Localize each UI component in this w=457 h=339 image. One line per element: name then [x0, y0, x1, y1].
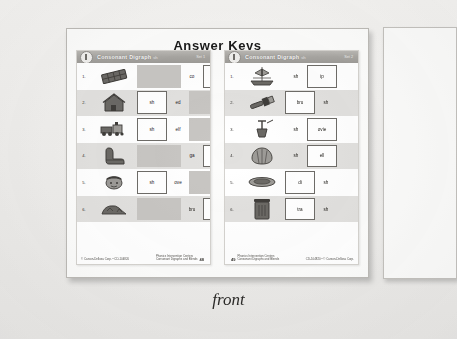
trash-pile-icon — [91, 196, 137, 223]
answer-cell-blank[interactable] — [189, 171, 211, 194]
answer-cell[interactable]: sh — [203, 145, 211, 168]
worksheet-right-title: Consonant Digraph — [245, 54, 299, 60]
answer-cell-blank[interactable] — [137, 145, 181, 168]
answer-cell[interactable]: ga — [181, 145, 203, 168]
worksheet-right-set-label: Set 2 — [344, 55, 353, 59]
answer-cell[interactable]: sh — [285, 145, 307, 168]
worksheet-right-footer: 49 Phonics Intervention Centers Consonan… — [225, 250, 358, 264]
answer-cell[interactable]: ove — [167, 171, 189, 194]
answer-cell[interactable]: ell — [307, 145, 337, 168]
worksheet-right-subtitle: sh — [301, 55, 305, 60]
page-number: 49 — [229, 257, 237, 262]
worksheet-left-footer: © Carson-Dellosa Corp. • CD-104820 Phoni… — [77, 250, 210, 264]
shovel-icon — [239, 116, 285, 143]
row-number: 1. — [225, 74, 239, 79]
answer-cell[interactable]: ovie — [307, 118, 337, 141]
answer-cell[interactable]: co — [181, 65, 203, 88]
answer-cell[interactable]: ed — [167, 91, 189, 114]
ship-icon — [239, 63, 285, 90]
answer-cell[interactable]: sh — [315, 171, 337, 194]
table-row[interactable]: 4. gash — [77, 143, 210, 170]
dish-icon — [239, 169, 285, 196]
figure-caption: front — [0, 290, 457, 310]
row-number: 6. — [225, 207, 239, 212]
worksheet-right-rows: 1. ship2. brush3. shovie4. shell5. dish6… — [225, 63, 358, 250]
number-badge-icon — [228, 51, 241, 64]
table-row[interactable]: 5. dish — [225, 169, 358, 196]
worksheet-left-rows: 1. cosh2. shed3. shelf4. gash5. shove6. — [77, 63, 210, 250]
table-row[interactable]: 1. cosh — [77, 63, 210, 90]
train-icon — [91, 116, 137, 143]
answer-cell-blank[interactable] — [189, 118, 211, 141]
table-row[interactable]: 6. brush — [77, 196, 210, 223]
copyright-text: © Carson-Dellosa Corp. • CD-104820 — [81, 258, 129, 262]
brush-icon — [239, 90, 285, 117]
adjacent-card-partial — [383, 27, 457, 279]
answer-cell[interactable]: elf — [167, 118, 189, 141]
answer-key-card: Answer Keys Consonant Digraph sh Set 1 1… — [66, 28, 369, 278]
answer-cells: ship — [285, 63, 358, 90]
answer-cells: shed — [137, 90, 211, 117]
worksheet-left-subtitle: sh — [153, 55, 157, 60]
row-number: 2. — [225, 100, 239, 105]
answer-cell-blank[interactable] — [137, 65, 181, 88]
row-number: 5. — [77, 180, 91, 185]
table-row[interactable]: 3. shelf — [77, 116, 210, 143]
answer-cell[interactable]: bru — [285, 91, 315, 114]
answer-cells: shell — [285, 143, 358, 170]
worksheet-left[interactable]: Consonant Digraph sh Set 1 1. cosh2. she… — [76, 50, 211, 265]
copyright-text: CD-104820 • © Carson-Dellosa Corp. — [306, 258, 354, 262]
answer-cell[interactable]: ip — [307, 65, 337, 88]
answer-cell[interactable]: sh — [285, 118, 307, 141]
worksheet-left-header: Consonant Digraph sh Set 1 — [77, 51, 210, 63]
answer-cells: brush — [285, 90, 358, 117]
answer-cell[interactable]: sh — [137, 91, 167, 114]
table-row[interactable]: 2. shed — [77, 90, 210, 117]
answer-cell[interactable]: di — [285, 171, 315, 194]
chocolate-bar-icon — [91, 63, 137, 90]
worksheet-right-header: Consonant Digraph sh Set 2 — [225, 51, 358, 63]
row-number: 1. — [77, 74, 91, 79]
worksheet-left-title: Consonant Digraph — [97, 54, 151, 60]
row-number: 3. — [77, 127, 91, 132]
row-number: 5. — [225, 180, 239, 185]
answer-cell[interactable]: sh — [203, 65, 211, 88]
answer-cell[interactable]: sh — [315, 198, 337, 221]
answer-cell-blank[interactable] — [189, 91, 211, 114]
answer-cell[interactable]: sh — [203, 198, 211, 221]
answer-cells: shelf — [137, 116, 211, 143]
boot-icon — [91, 143, 137, 170]
page-number: 48 — [198, 257, 206, 262]
answer-cell[interactable]: sh — [285, 65, 307, 88]
trash-can-icon — [239, 196, 285, 223]
shell-icon — [239, 143, 285, 170]
table-row[interactable]: 5. shove — [77, 169, 210, 196]
answer-cell[interactable]: tra — [285, 198, 315, 221]
answer-cells: brush — [137, 196, 211, 223]
worksheet-left-set-label: Set 1 — [196, 55, 205, 59]
answer-cells: gash — [137, 143, 211, 170]
answer-cells: dish — [285, 169, 358, 196]
table-row[interactable]: 4. shell — [225, 143, 358, 170]
row-number: 3. — [225, 127, 239, 132]
worksheet-right[interactable]: Consonant Digraph sh Set 2 1. ship2. bru… — [224, 50, 359, 265]
answer-cell-blank[interactable] — [137, 198, 181, 221]
table-row[interactable]: 3. shovie — [225, 116, 358, 143]
number-badge-icon — [80, 51, 93, 64]
answer-cell[interactable]: sh — [137, 118, 167, 141]
table-row[interactable]: 2. brush — [225, 90, 358, 117]
boy-face-icon — [91, 169, 137, 196]
series-subtitle: Consonant Digraphs and Blends — [237, 258, 279, 262]
answer-cell[interactable]: sh — [315, 91, 337, 114]
answer-cell[interactable]: bru — [181, 198, 203, 221]
table-row[interactable]: 1. ship — [225, 63, 358, 90]
table-row[interactable]: 6. trash — [225, 196, 358, 223]
answer-cell[interactable]: sh — [137, 171, 167, 194]
answer-cells: shovie — [285, 116, 358, 143]
series-subtitle: Consonant Digraphs and Blends — [156, 258, 198, 262]
answer-cells: cosh — [137, 63, 211, 90]
answer-cells: trash — [285, 196, 358, 223]
answer-cells: shove — [137, 169, 211, 196]
row-number: 6. — [77, 207, 91, 212]
house-icon — [91, 90, 137, 117]
